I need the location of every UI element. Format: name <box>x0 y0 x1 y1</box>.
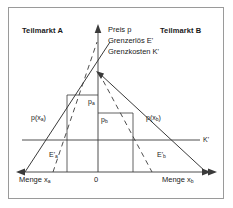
mr-label-b-subscript: b <box>163 153 166 159</box>
curve-label-a-text: p(x <box>31 114 41 121</box>
x-axis-right-subscript: b <box>191 178 194 184</box>
origin-label: 0 <box>94 176 98 184</box>
price-b-label: pb <box>101 116 108 124</box>
mr-label-a: E'a <box>49 151 58 159</box>
mc-label: K' <box>203 136 209 143</box>
demand-curve-b <box>99 73 206 172</box>
curve-label-b: p(xb) <box>146 114 161 122</box>
mr-label-a-subscript: a <box>55 153 58 159</box>
mr-label-b: E'b <box>157 151 166 159</box>
price-b-subscript: b <box>105 118 108 124</box>
axis-legend-grenzkosten: Grenzkosten K' <box>108 48 159 56</box>
curve-label-b-text: p(x <box>146 114 156 121</box>
title-teilmarkt-b: Teilmarkt B <box>160 27 201 35</box>
marginal-revenue-a <box>53 42 97 172</box>
curve-label-a: p(xa) <box>31 114 46 122</box>
demand-curve-a <box>25 42 110 172</box>
x-axis-left-label: Menge xa <box>19 176 51 184</box>
x-axis-left-text: Menge x <box>19 175 48 184</box>
title-teilmarkt-a: Teilmarkt A <box>22 27 63 35</box>
price-a-subscript: a <box>92 100 95 106</box>
curve-label-a-close: ) <box>44 114 46 121</box>
axis-legend-grenzerloes: Grenzerlös E' <box>108 37 153 45</box>
x-axis-right-label: Menge xb <box>162 176 194 184</box>
x-axis-right-text: Menge x <box>162 175 191 184</box>
p-axis-arrow <box>95 24 102 33</box>
price-a-label: pa <box>88 98 95 106</box>
x-axis-left-subscript: a <box>48 178 51 184</box>
curve-label-b-close: ) <box>159 114 161 121</box>
axis-legend-preis: Preis p <box>108 26 131 34</box>
figure-root: Teilmarkt A Teilmarkt B Preis p Grenzerl… <box>0 0 233 208</box>
